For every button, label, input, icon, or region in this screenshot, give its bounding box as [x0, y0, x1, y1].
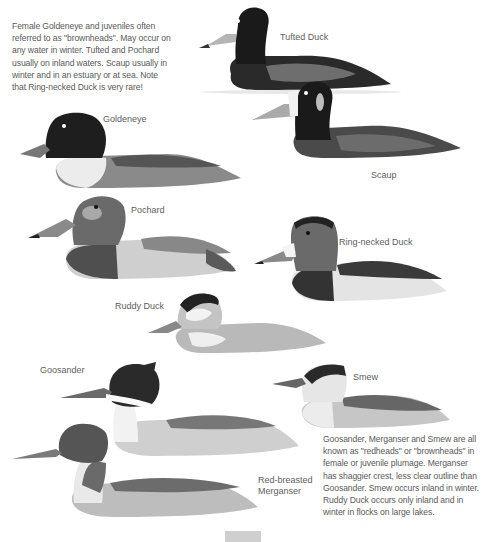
scaup-illustration: [246, 80, 466, 160]
merganser-label-line1: Red-breasted: [258, 475, 313, 486]
ring-necked-duck-illustration: [252, 213, 452, 303]
ring-necked-duck-label: Ring-necked Duck: [339, 237, 413, 248]
page-tab-marker: [225, 531, 261, 542]
intro-caption: Female Goldeneye and juveniles often ref…: [12, 20, 172, 93]
mergansers-caption: Goosander, Merganser and Smew are all kn…: [323, 433, 483, 518]
goldeneye-label: Goldeneye: [103, 114, 147, 125]
ruddy-duck-illustration: [148, 291, 328, 355]
merganser-label-line2: Merganser: [258, 486, 301, 497]
goosander-label: Goosander: [40, 365, 85, 376]
pochard-label: Pochard: [131, 205, 165, 216]
tufted-duck-label: Tufted Duck: [280, 32, 328, 43]
red-breasted-merganser-illustration: [10, 423, 260, 518]
ruddy-duck-label: Ruddy Duck: [115, 301, 164, 312]
smew-label: Smew: [353, 372, 378, 383]
scaup-label: Scaup: [371, 170, 397, 181]
